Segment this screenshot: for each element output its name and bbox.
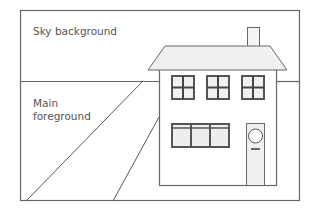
sky-background-label: Sky background	[33, 25, 117, 38]
roof	[148, 46, 287, 70]
upper-window-2	[207, 76, 229, 99]
door-handle	[251, 148, 260, 150]
upper-window-1	[172, 76, 194, 99]
main-foreground-label: Main foreground	[33, 97, 91, 123]
chimney	[248, 28, 260, 47]
door	[247, 124, 265, 186]
door-window-circle	[249, 129, 263, 143]
lower-window	[172, 124, 229, 147]
upper-window-3	[242, 76, 264, 99]
